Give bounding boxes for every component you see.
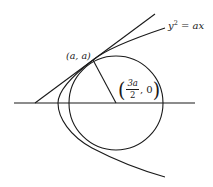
curve-rhs: = ax	[178, 20, 204, 31]
center-tail: , 0	[140, 84, 153, 95]
radius-normal-line	[93, 60, 116, 103]
tangent-point-label: (a, a)	[66, 50, 91, 61]
open-paren: (	[118, 79, 125, 100]
curve-equation-label: y2 = ax	[168, 19, 204, 31]
fraction-denominator: 2	[130, 90, 135, 100]
close-paren: )	[153, 79, 160, 100]
fraction-numerator: 3a	[126, 79, 138, 90]
circle-center-label: ( 3a 2 , 0 )	[118, 79, 160, 99]
fraction: 3a 2	[126, 79, 138, 99]
